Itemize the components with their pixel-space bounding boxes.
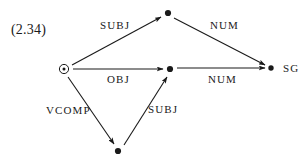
- edge-label-num-bottom: NUM: [208, 73, 237, 85]
- node-sg-dot: [268, 65, 273, 70]
- node-label-sg: SG: [283, 62, 299, 74]
- edge-label-subj-bottom: SUBJ: [148, 103, 178, 115]
- node-middle-dot: [167, 66, 173, 72]
- figure-container: (2.34) SUBJ NUM OBJ: [0, 0, 307, 163]
- node-top-dot: [165, 10, 171, 16]
- edge-label-vcomp: VCOMP: [46, 104, 91, 116]
- node-bottom-dot: [115, 148, 121, 154]
- edge-label-num-top: NUM: [210, 19, 239, 31]
- node-root-circled-dot: [59, 64, 68, 73]
- nodes-group: [59, 10, 273, 154]
- edge-label-obj: OBJ: [107, 73, 130, 85]
- graph-diagram: [0, 0, 307, 163]
- edge-label-subj-top: SUBJ: [100, 19, 130, 31]
